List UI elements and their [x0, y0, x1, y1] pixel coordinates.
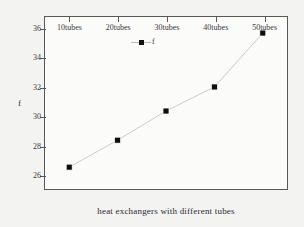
x-tick-label: 40tubes: [203, 23, 228, 32]
x-tick-mark: [265, 17, 266, 22]
plot-area: [45, 17, 287, 189]
plot-frame: 26283032343610tubes20tubes30tubes40tubes…: [44, 16, 288, 190]
x-tick-label: 30tubes: [155, 23, 180, 32]
y-tick-label: 34: [33, 51, 41, 64]
series-line: [69, 33, 263, 167]
x-axis-title: heat exchangers with different tubes: [44, 206, 288, 216]
chart-legend: f: [131, 36, 155, 48]
x-tick-mark: [167, 17, 168, 22]
y-tick-label: 32: [33, 81, 41, 94]
y-tick-label: 26: [33, 169, 41, 182]
y-tick-label: 36: [33, 22, 41, 35]
x-tick-label: 20tubes: [106, 23, 131, 32]
data-point-40tubes: [211, 84, 217, 90]
chart-figure: 26283032343610tubes20tubes30tubes40tubes…: [0, 0, 304, 227]
y-tick-label: 30: [33, 110, 41, 123]
legend-marker-swatch: [139, 40, 144, 45]
data-point-30tubes: [163, 108, 169, 114]
x-tick-mark: [216, 17, 217, 22]
y-axis-title: f: [18, 98, 21, 108]
x-tick-mark: [69, 17, 70, 22]
series-f: [45, 17, 287, 189]
x-tick-label: 50tubes: [252, 23, 277, 32]
data-point-20tubes: [115, 137, 121, 143]
x-tick-label: 10tubes: [57, 23, 82, 32]
data-point-10tubes: [66, 164, 72, 170]
y-tick-label: 28: [33, 140, 41, 153]
legend-label: f: [152, 37, 155, 47]
x-tick-mark: [118, 17, 119, 22]
